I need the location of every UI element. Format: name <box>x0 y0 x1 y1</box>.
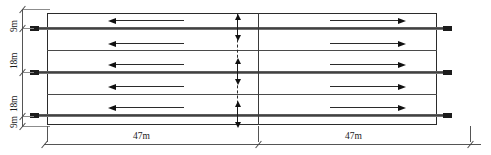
interior-line-2 <box>47 94 437 95</box>
center-double-arrow-1 <box>237 20 238 35</box>
flow-arrow-left-3 <box>116 64 184 65</box>
dim-label-47m-left: 47m <box>133 131 150 141</box>
flow-arrow-right-3 <box>330 64 398 65</box>
dim-label-9m-bottom: 9m <box>9 116 19 128</box>
dim-label-47m-right: 47m <box>345 131 362 141</box>
ext-line-top <box>22 9 50 10</box>
flow-arrow-right-1 <box>330 20 398 21</box>
flow-arrow-left-4 <box>116 86 184 87</box>
interior-line-1 <box>47 50 437 51</box>
ext-line-band3 <box>22 116 34 117</box>
witness-line-right <box>470 126 471 142</box>
drawing-canvas: 9m 18m 18m 9m 47m 47m <box>0 0 491 155</box>
band-cap-right-2 <box>443 70 452 75</box>
witness-line-center <box>258 126 259 142</box>
band-cap-right-3 <box>443 113 452 118</box>
structural-band-2 <box>32 71 452 74</box>
witness-line-left <box>47 126 48 142</box>
flow-arrow-left-5 <box>116 107 184 108</box>
ext-line-band1 <box>22 28 34 29</box>
structural-band-1 <box>32 27 452 30</box>
horizontal-dimension-line <box>44 144 481 145</box>
dim-label-18m-upper: 18m <box>9 53 19 69</box>
flow-arrow-left-2 <box>116 43 184 44</box>
center-double-arrow-2 <box>237 64 238 79</box>
flow-arrow-right-2 <box>330 43 398 44</box>
ext-line-band2 <box>22 72 34 73</box>
dim-label-18m-lower: 18m <box>9 96 19 112</box>
ext-line-bottom <box>22 126 50 127</box>
flow-arrow-right-4 <box>330 86 398 87</box>
flow-arrow-right-5 <box>330 107 398 108</box>
flow-arrow-left-1 <box>116 20 184 21</box>
center-double-arrow-3 <box>237 107 238 122</box>
band-cap-right-1 <box>443 26 452 31</box>
dim-label-9m-top: 9m <box>9 20 19 32</box>
structural-band-3 <box>32 114 452 117</box>
center-divider-line <box>258 13 259 125</box>
